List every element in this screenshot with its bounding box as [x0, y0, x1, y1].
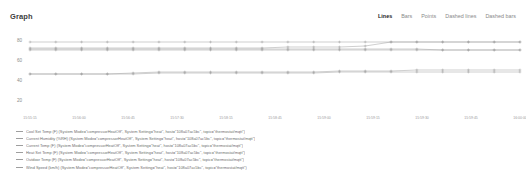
chart-legend: Cool Set Temp (F) (System Mode="compress… [0, 128, 526, 171]
series-line [30, 42, 520, 48]
data-point-marker [519, 41, 522, 44]
legend-color-swatch [16, 152, 23, 153]
legend-color-swatch [16, 138, 23, 139]
x-axis-tick-labels: 15:55:1515:56:0015:56:4515:57:3015:58:15… [23, 116, 526, 120]
data-point-marker [519, 49, 522, 52]
data-point-marker [467, 49, 470, 52]
legend-color-swatch [16, 145, 23, 146]
data-point-marker [261, 41, 264, 44]
legend-color-swatch [16, 159, 23, 160]
data-point-marker [364, 45, 367, 48]
panel-header: Graph LinesBarsPointsDashed linesDashed … [0, 8, 526, 24]
data-point-marker [467, 71, 470, 74]
x-axis-tick-label: 15:55:15 [23, 116, 37, 120]
data-point-marker [415, 41, 418, 44]
data-point-marker [54, 73, 57, 76]
data-point-marker [493, 49, 496, 52]
legend-item-label: Heat Set Temp (F) (System Mode="compress… [26, 149, 245, 156]
data-point-marker [286, 41, 289, 44]
chart-svg: 80604020 15:55:1515:56:0015:56:4515:57:3… [0, 24, 526, 124]
x-axis-tick-label: 15:59:15 [366, 116, 380, 120]
legend-color-swatch [16, 131, 23, 132]
x-axis-tick-label: 15:56:45 [121, 116, 135, 120]
data-point-marker [441, 49, 444, 52]
legend-item[interactable]: Cool Set Temp (F) (System Mode="compress… [16, 128, 510, 135]
y-axis-tick-labels: 80604020 [17, 38, 23, 103]
legend-item[interactable]: Current Humidity (%RH) (System Mode="com… [16, 135, 510, 142]
chart-type-toolbar: LinesBarsPointsDashed linesDashed bars [378, 12, 516, 20]
graph-panel: Graph LinesBarsPointsDashed linesDashed … [0, 0, 526, 196]
data-point-marker [441, 71, 444, 74]
data-point-marker [519, 71, 522, 74]
data-point-marker [235, 41, 238, 44]
data-point-marker [493, 71, 496, 74]
data-point-marker [158, 41, 161, 44]
legend-item-label: Outdoor Temp (F) (System Mode="compresso… [26, 156, 244, 163]
data-point-marker [80, 73, 83, 76]
x-axis-tick-label: 15:56:00 [72, 116, 86, 120]
x-axis-tick-label: 16:00:00 [513, 116, 526, 120]
legend-item[interactable]: Current Temp (F) (System Mode="compresso… [16, 142, 510, 149]
page-title: Graph [10, 12, 33, 21]
x-axis-tick-label: 15:58:45 [268, 116, 282, 120]
legend-item[interactable]: Wind Speed (km/h) (System Mode="compress… [16, 163, 510, 170]
chart-type-dashed-lines[interactable]: Dashed lines [445, 12, 476, 20]
data-point-marker [493, 41, 496, 44]
data-point-marker [80, 41, 83, 44]
data-point-marker [132, 41, 135, 44]
legend-color-swatch [16, 167, 23, 168]
data-point-marker [312, 41, 315, 44]
data-point-marker [441, 41, 444, 44]
data-point-marker [467, 41, 470, 44]
x-axis-tick-label: 15:59:45 [464, 116, 478, 120]
chart-type-dashed-bars[interactable]: Dashed bars [485, 12, 516, 20]
legend-item[interactable]: Heat Set Temp (F) (System Mode="compress… [16, 149, 510, 156]
chart-type-lines[interactable]: Lines [378, 12, 392, 20]
plot-area: 80604020 15:55:1515:56:0015:56:4515:57:3… [0, 24, 526, 124]
data-point-marker [390, 41, 393, 44]
data-point-marker [106, 41, 109, 44]
data-point-marker [338, 41, 341, 44]
data-point-marker [29, 73, 32, 76]
data-point-marker [364, 41, 367, 44]
x-axis-tick-label: 15:58:15 [219, 116, 233, 120]
legend-item[interactable]: Outdoor Temp (F) (System Mode="compresso… [16, 156, 510, 163]
chart-type-bars[interactable]: Bars [401, 12, 412, 20]
chart-type-points[interactable]: Points [421, 12, 436, 20]
legend-item-label: Current Temp (F) (System Mode="compresso… [26, 142, 243, 149]
data-point-marker [54, 41, 57, 44]
data-point-marker [415, 71, 418, 74]
data-point-marker [209, 41, 212, 44]
x-axis-tick-label: 15:59:30 [415, 116, 429, 120]
y-axis-tick-label: 20 [17, 98, 23, 103]
x-axis-tick-label: 15:59:00 [317, 116, 331, 120]
series-wind-speed-km-h [29, 71, 522, 76]
data-point-marker [183, 41, 186, 44]
data-point-marker [106, 73, 109, 76]
y-axis-tick-label: 80 [17, 38, 23, 43]
legend-item-label: Current Humidity (%RH) (System Mode="com… [26, 135, 255, 142]
legend-item-label: Cool Set Temp (F) (System Mode="compress… [26, 128, 245, 135]
series-layer [29, 41, 522, 76]
data-point-marker [29, 41, 32, 44]
y-axis-tick-label: 40 [17, 78, 23, 83]
legend-item-label: Wind Speed (km/h) (System Mode="compress… [26, 164, 247, 171]
x-axis-tick-label: 15:57:30 [170, 116, 184, 120]
series-line [30, 72, 520, 74]
y-axis-tick-label: 60 [17, 58, 23, 63]
